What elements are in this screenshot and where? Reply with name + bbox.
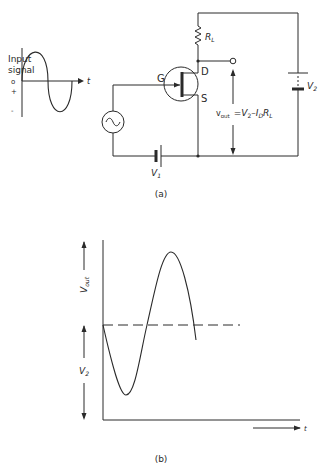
input-signal-title-line2: signal bbox=[8, 65, 35, 75]
battery-v2-label: V2 bbox=[307, 81, 317, 92]
input-signal-title-line1: Input bbox=[8, 54, 32, 64]
minus-label: - bbox=[11, 107, 14, 115]
junction-dot-source bbox=[196, 154, 199, 157]
vout-equation: vout=V2–IDRL bbox=[216, 108, 273, 119]
battery-v1-label: V1 bbox=[151, 168, 161, 179]
figure-canvas: Input signal + o - t G D S RL V1 V2 vout… bbox=[0, 0, 323, 466]
output-sine-wave bbox=[103, 252, 196, 395]
arrow-up-icon bbox=[231, 69, 236, 76]
gate-arrow-icon bbox=[174, 83, 180, 88]
arrow-up-icon bbox=[82, 325, 87, 332]
caption-b: (b) bbox=[155, 454, 168, 464]
arrow-right-icon bbox=[78, 78, 84, 84]
arrow-right-icon bbox=[294, 426, 301, 431]
gate-label: G bbox=[157, 73, 165, 84]
arrow-down-icon bbox=[231, 148, 236, 155]
v2-axis-label: V2 bbox=[79, 366, 89, 377]
input-time-label: t bbox=[87, 77, 91, 86]
zero-label: o bbox=[11, 78, 15, 86]
plus-label: + bbox=[11, 88, 17, 96]
caption-a: (a) bbox=[155, 189, 168, 199]
ac-tilde-icon bbox=[106, 118, 120, 126]
drain-label: D bbox=[201, 66, 209, 77]
output-waveform-plot bbox=[82, 240, 302, 431]
resistor-icon bbox=[195, 26, 201, 45]
source-label: S bbox=[201, 93, 207, 104]
arrow-down-icon bbox=[82, 413, 87, 420]
output-terminal-icon bbox=[230, 58, 236, 64]
arrow-up-icon bbox=[82, 241, 87, 248]
vout-axis-label: Vout bbox=[79, 276, 90, 293]
resistor-label: RL bbox=[205, 32, 215, 43]
time-axis-label: t bbox=[304, 425, 307, 433]
